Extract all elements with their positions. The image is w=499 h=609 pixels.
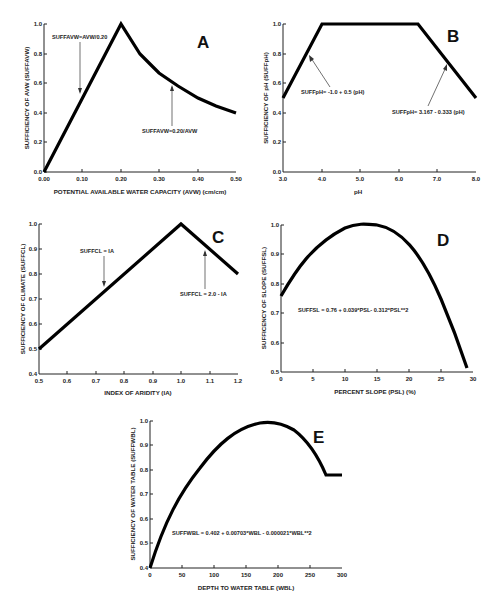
y-tick-label: 0.8 bbox=[271, 281, 280, 287]
x-tick-label: 0.9 bbox=[149, 378, 158, 384]
y-axis-label: SUFFICIENCY OF WATER TABLE (SUFFWBL) bbox=[129, 427, 136, 560]
chart-panel-a: 0.0 0.2 0.4 0.6 0.8 1.0 0.00 0.10 0.20 0… bbox=[23, 21, 242, 195]
y-tick-label: 1.0 bbox=[273, 21, 282, 27]
x-tick-label: 0 bbox=[279, 376, 283, 382]
x-ticks-a: 0.00 0.10 0.20 0.30 0.40 0.50 bbox=[38, 169, 242, 182]
data-line-c bbox=[39, 224, 238, 349]
y-axis-label: SUFFICIENCY OF AVW (SUFFAVW) bbox=[23, 47, 30, 150]
y-tick-label: 0.4 bbox=[273, 110, 282, 116]
x-tick-label: 200 bbox=[273, 572, 284, 578]
x-tick-label: 10 bbox=[342, 376, 349, 382]
x-tick-label: 4.0 bbox=[318, 176, 327, 182]
panel-letter-a: A bbox=[197, 33, 209, 52]
y-tick-label: 0.4 bbox=[34, 110, 43, 116]
arrowhead-icon bbox=[170, 85, 174, 91]
x-ticks-c: 0.5 0.6 0.7 0.8 0.9 1.0 1.1 1.2 bbox=[35, 371, 243, 384]
x-tick-label: 0.00 bbox=[38, 176, 50, 182]
x-ticks-d: 0 5 10 15 20 25 30 bbox=[279, 369, 477, 382]
panel-letter-e: E bbox=[313, 428, 324, 447]
y-tick-label: 0.6 bbox=[140, 516, 149, 522]
y-tick-label: 0.5 bbox=[29, 346, 38, 352]
arrow-icon bbox=[311, 58, 330, 87]
x-tick-label: 3.0 bbox=[279, 176, 288, 182]
x-tick-label: 50 bbox=[179, 572, 186, 578]
y-tick-label: 0.8 bbox=[140, 467, 149, 473]
y-tick-label: 0.4 bbox=[140, 565, 149, 571]
panel-letter-c: C bbox=[212, 228, 224, 247]
y-axis-label: SUFFICIENCY OF CLIMATE (SUFFCL) bbox=[19, 244, 26, 354]
chart-panel-c: 0.4 0.5 0.6 0.7 0.8 0.9 1.0 0.5 0.6 0.7 … bbox=[19, 221, 243, 396]
x-tick-label: 6.0 bbox=[395, 176, 404, 182]
x-tick-label: 0.50 bbox=[230, 176, 242, 182]
x-tick-label: 0 bbox=[148, 572, 152, 578]
x-ticks-b: 3.0 4.0 5.0 6.0 7.0 8.0 bbox=[279, 169, 481, 182]
y-tick-label: 1.0 bbox=[34, 21, 43, 27]
x-tick-label: 100 bbox=[209, 572, 220, 578]
y-axis-label: SUFFICIENCY OF pH (SUFFpH) bbox=[262, 52, 269, 144]
y-tick-label: 0.6 bbox=[29, 321, 38, 327]
x-tick-label: 0.7 bbox=[92, 378, 101, 384]
annotation: SUFFpH= 3.167 - 0.333 (pH) bbox=[392, 109, 465, 115]
x-tick-label: 5.0 bbox=[356, 176, 365, 182]
annotation: SUFFpH= -1.0 + 0.5 (pH) bbox=[301, 89, 365, 95]
arrowhead-icon bbox=[203, 250, 207, 256]
x-tick-label: 1.2 bbox=[234, 378, 243, 384]
annotation: SUFFAVW=0.20/AVW bbox=[142, 128, 198, 134]
y-ticks-e: 0.4 0.5 0.6 0.7 0.8 0.9 1.0 bbox=[140, 418, 153, 571]
y-tick-label: 0.7 bbox=[140, 491, 149, 497]
figure-canvas: 0.0 0.2 0.4 0.6 0.8 1.0 0.00 0.10 0.20 0… bbox=[0, 0, 499, 609]
x-axis-label: POTENTIAL AVAILABLE WATER CAPACITY (AVW)… bbox=[54, 188, 227, 195]
panel-letter-b: B bbox=[447, 27, 459, 46]
y-tick-label: 0.6 bbox=[273, 80, 282, 86]
y-tick-label: 0.6 bbox=[34, 80, 43, 86]
y-ticks-d: 0.5 0.6 0.7 0.8 0.9 1.0 bbox=[271, 222, 284, 375]
y-tick-label: 1.0 bbox=[271, 222, 280, 228]
chart-panel-d: 0.5 0.6 0.7 0.8 0.9 1.0 0 5 10 15 20 25 … bbox=[260, 222, 477, 395]
y-tick-label: 1.0 bbox=[140, 418, 149, 424]
y-tick-label: 0.2 bbox=[34, 139, 43, 145]
x-axis-label: pH bbox=[354, 188, 363, 195]
x-tick-label: 0.6 bbox=[63, 378, 72, 384]
x-tick-label: 15 bbox=[374, 376, 381, 382]
x-tick-label: 20 bbox=[406, 376, 413, 382]
panel-letter-d: D bbox=[437, 231, 449, 250]
x-tick-label: 0.40 bbox=[192, 176, 204, 182]
y-tick-label: 0.2 bbox=[273, 139, 282, 145]
x-ticks-e: 0 50 100 150 200 250 300 bbox=[148, 565, 347, 578]
x-tick-label: 0.10 bbox=[76, 176, 88, 182]
x-tick-label: 1.1 bbox=[206, 378, 215, 384]
chart-panel-e: 0.4 0.5 0.6 0.7 0.8 0.9 1.0 0 50 100 150… bbox=[129, 418, 348, 591]
y-tick-label: 0.0 bbox=[34, 169, 43, 175]
chart-panel-b: 0.0 0.2 0.4 0.6 0.8 1.0 3.0 4.0 5.0 6.0 … bbox=[262, 21, 481, 195]
y-tick-label: 0.4 bbox=[29, 371, 38, 377]
x-tick-label: 300 bbox=[337, 572, 348, 578]
y-tick-label: 0.7 bbox=[271, 310, 280, 316]
y-tick-label: 0.7 bbox=[29, 296, 38, 302]
annotation: SUFFSL = 0.76 + 0.039*PSL- 0.312*PSL**2 bbox=[298, 307, 408, 313]
arrow-icon bbox=[428, 67, 446, 106]
arrowhead-icon bbox=[78, 88, 82, 94]
y-tick-label: 0.8 bbox=[29, 271, 38, 277]
annotation: SUFFCL = 2.0 - IA bbox=[180, 291, 227, 297]
y-tick-label: 0.5 bbox=[140, 540, 149, 546]
x-tick-label: 1.0 bbox=[177, 378, 186, 384]
y-tick-label: 0.0 bbox=[273, 169, 282, 175]
x-tick-label: 5 bbox=[311, 376, 315, 382]
y-tick-label: 0.9 bbox=[271, 251, 280, 257]
x-tick-label: 0.20 bbox=[115, 176, 127, 182]
y-tick-label: 0.8 bbox=[273, 51, 282, 57]
x-tick-label: 0.5 bbox=[35, 378, 44, 384]
y-ticks-a: 0.0 0.2 0.4 0.6 0.8 1.0 bbox=[34, 21, 47, 175]
y-tick-label: 0.6 bbox=[271, 340, 280, 346]
x-tick-label: 0.30 bbox=[153, 176, 165, 182]
arrowhead-icon bbox=[102, 281, 106, 287]
y-tick-label: 1.0 bbox=[29, 221, 38, 227]
x-tick-label: 25 bbox=[438, 376, 445, 382]
y-tick-label: 0.9 bbox=[29, 246, 38, 252]
x-tick-label: 250 bbox=[305, 572, 316, 578]
x-tick-label: 0.8 bbox=[120, 378, 129, 384]
y-tick-label: 0.5 bbox=[271, 369, 280, 375]
annotation: SUFFWBL = 0.402 + 0.00703*WBL - 0.000021… bbox=[172, 530, 312, 536]
y-tick-label: 0.9 bbox=[140, 442, 149, 448]
x-axis-label: INDEX OF ARIDITY (IA) bbox=[104, 389, 171, 396]
